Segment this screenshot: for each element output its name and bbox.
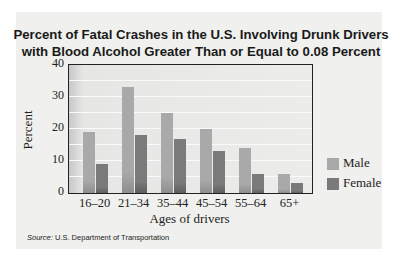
- gridline: [69, 80, 312, 81]
- y-tick-label: 20: [44, 120, 64, 135]
- bar-female: [135, 135, 147, 193]
- plot-area: [68, 64, 313, 194]
- legend-swatch-male: [327, 158, 339, 170]
- gridline: [69, 144, 312, 145]
- bar-female: [252, 174, 264, 193]
- bar-male: [122, 87, 134, 193]
- legend-label-male: Male: [343, 155, 370, 171]
- y-axis-label: Percent: [20, 111, 36, 150]
- bar-male: [278, 174, 290, 193]
- y-tick-label: 30: [44, 88, 64, 103]
- bar-male: [200, 129, 212, 193]
- gridline: [69, 128, 312, 129]
- bar-male: [161, 113, 173, 193]
- bar-female: [291, 183, 303, 193]
- gridline: [69, 160, 312, 161]
- bar-male: [83, 132, 95, 193]
- chart-title: Percent of Fatal Crashes in the U.S. Inv…: [0, 26, 402, 60]
- bar-female: [96, 164, 108, 193]
- legend-label-female: Female: [343, 175, 381, 191]
- y-tick-label: 10: [44, 152, 64, 167]
- x-tick-label: 65+: [265, 196, 315, 211]
- source-text: U.S. Department of Transportation: [55, 233, 169, 242]
- source-note: Source: U.S. Department of Transportatio…: [27, 233, 169, 242]
- legend-swatch-female: [327, 178, 339, 190]
- bar-female: [213, 151, 225, 193]
- y-tick-label: 40: [44, 56, 64, 71]
- source-label: Source:: [27, 233, 53, 242]
- chart-title-line-1: Percent of Fatal Crashes in the U.S. Inv…: [0, 26, 402, 43]
- x-axis-label: Ages of drivers: [68, 211, 311, 227]
- y-tick-label: 0: [44, 184, 64, 199]
- gridline: [69, 96, 312, 97]
- bar-female: [174, 139, 186, 193]
- bar-male: [239, 148, 251, 193]
- gridline: [69, 112, 312, 113]
